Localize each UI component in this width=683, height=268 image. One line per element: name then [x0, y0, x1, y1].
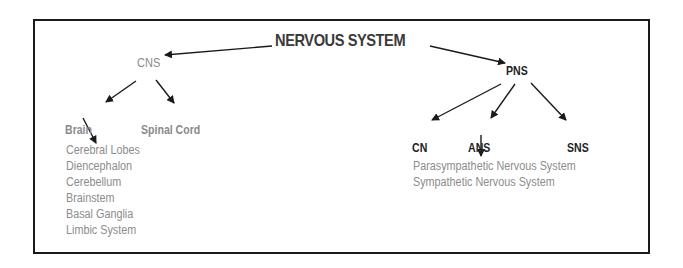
arrow-title-to-cns — [165, 46, 272, 55]
list-item: Parasympathetic Nervous System — [413, 158, 576, 174]
node-ans: ANS — [468, 142, 490, 154]
node-cn: CN — [412, 142, 427, 154]
node-cns: CNS — [137, 57, 160, 70]
arrow-title-to-pns — [430, 46, 505, 63]
node-sns: SNS — [567, 142, 589, 154]
list-item: Diencephalon — [66, 158, 140, 174]
node-pns: PNS — [506, 65, 528, 77]
list-item: Sympathetic Nervous System — [413, 174, 576, 190]
list-item: Brainstem — [66, 190, 140, 206]
node-spinal-cord: Spinal Cord — [141, 124, 200, 136]
list-item: Basal Ganglia — [66, 206, 140, 222]
arrow-pns-to-cn — [432, 84, 501, 120]
list-item: Limbic System — [66, 222, 140, 238]
list-item: Cerebellum — [66, 174, 140, 190]
arrow-cns-to-spinal — [156, 80, 174, 103]
node-brain: Brain — [65, 124, 92, 136]
arrow-pns-to-sns — [531, 83, 566, 120]
ans-parts-list: Parasympathetic Nervous System Sympathet… — [413, 158, 576, 190]
brain-parts-list: Cerebral Lobes Diencephalon Cerebellum B… — [66, 142, 140, 238]
diagram-title: NERVOUS SYSTEM — [275, 32, 405, 49]
arrow-pns-to-ans — [491, 84, 515, 118]
list-item: Cerebral Lobes — [66, 142, 140, 158]
arrow-cns-to-brain — [106, 81, 136, 102]
